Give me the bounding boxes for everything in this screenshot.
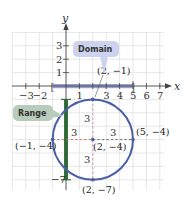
- radius-label-left: 3: [71, 127, 77, 138]
- x-axis-arrow-icon: [165, 83, 172, 88]
- y-tick-label: −7: [51, 174, 66, 185]
- point-label-center: (2, −4): [93, 141, 127, 152]
- radius-label-up: 3: [84, 113, 90, 124]
- y-axis-label: y: [61, 12, 69, 25]
- coordinate-graph: [ ] x y −3 −2 1 3 4 5 6 7 3 2 1 −7: [0, 0, 186, 197]
- point-label-bottom: (2, −7): [82, 184, 116, 195]
- x-tick-label: 3: [103, 90, 109, 101]
- point-bottom: [91, 178, 95, 182]
- radius-label-down: 3: [84, 154, 90, 165]
- x-tick-label: 5: [130, 90, 136, 101]
- point-right: [131, 138, 135, 142]
- point-label-left: (−1, −4): [15, 140, 56, 151]
- x-tick-label: −2: [33, 90, 48, 101]
- point-label-right: (5, −4): [136, 126, 170, 137]
- range-callout: Range: [13, 105, 63, 121]
- x-tick-label: 1: [77, 90, 83, 101]
- x-tick-label: 4: [117, 90, 123, 101]
- radius-label-right: 3: [110, 127, 116, 138]
- point-top: [91, 98, 95, 102]
- y-tick-label: 3: [56, 40, 62, 51]
- y-tick-label: 1: [56, 67, 62, 78]
- x-tick-label: 6: [144, 90, 150, 101]
- x-tick-label: 7: [157, 90, 163, 101]
- x-axis-label: x: [174, 80, 181, 93]
- y-tick-label: 2: [56, 54, 62, 65]
- range-callout-label: Range: [18, 109, 47, 118]
- point-label-top: (2, −1): [97, 65, 131, 76]
- domain-callout-label: Domain: [78, 45, 113, 54]
- domain-bracket-left: [: [51, 81, 55, 92]
